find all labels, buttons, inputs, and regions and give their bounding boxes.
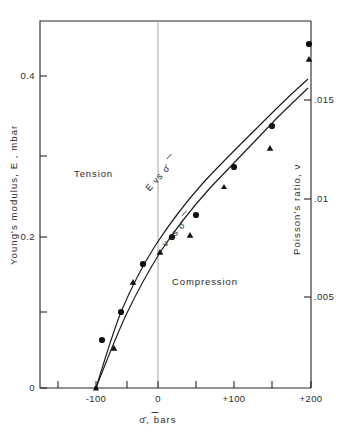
y2-tick-label-.01: .01 [314,193,328,204]
x-tick-label-+200: +200 [300,393,323,404]
y2-tick-label-.015: .015 [314,94,334,105]
y-tick-label-0.2: 0.2 [21,231,35,242]
compression-region-label: Compression [172,276,238,287]
y2-axis-title: Poisson's ratio, ν [291,164,302,255]
x-axis-title-rest: , bars [146,414,176,425]
chart-figure: 0 0.2 0.4 Young's modulus, E , mbar .005… [0,0,346,433]
y-tick-label-0.4: 0.4 [21,70,35,81]
x-tick-label-0: 0 [155,393,161,404]
x-axis-title: σ̄, bars [139,413,176,426]
y-axis-title: Young's modulus, E , mbar [8,125,19,265]
y2-tick-label-.005: .005 [314,291,334,302]
tension-region-label: Tension [74,168,113,179]
y-tick-label-0: 0 [29,382,35,393]
svg-text:σ̄, bars: σ̄, bars [139,414,176,425]
x-tick-label--100: -100 [86,393,107,404]
x-tick-label-+100: +100 [223,393,246,404]
